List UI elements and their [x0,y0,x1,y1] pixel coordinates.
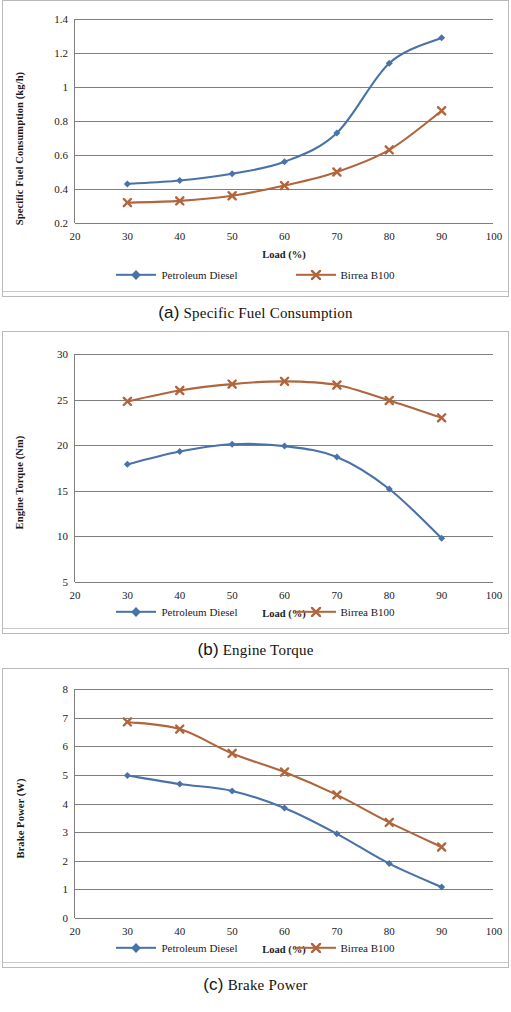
data-point-marker [281,443,288,450]
legend-item-diesel[interactable]: Petroleum Diesel [116,942,237,954]
caption-c-text: Brake Power [228,977,308,993]
x-axis-tick-label: 40 [174,589,185,601]
y-axis-tick-label: 30 [57,348,75,360]
legend-label-diesel: Petroleum Diesel [161,606,237,618]
series-line [127,722,441,847]
x-axis-tick-label: 30 [122,589,133,601]
x-axis-tick-label: 90 [436,925,447,937]
y-axis-tick-label: 0.6 [54,149,75,161]
x-axis-tick-label: 40 [174,230,185,242]
x-axis-tick-label: 40 [174,925,185,937]
legend-label-b100: Birrea B100 [341,269,395,281]
x-axis-tick-label: 30 [122,925,133,937]
y-axis-tick-label: 1.2 [54,47,75,59]
y-axis-label-b: Engine Torque (Nm) [11,332,29,633]
x-axis-tick-label: 80 [384,589,395,601]
figure-container: Specific Fuel Consumption (kg/h) 0.20.40… [0,0,511,999]
series-layer [75,689,494,918]
data-point-marker [124,180,131,187]
caption-c-tag: (c) [203,975,223,994]
y-axis-tick-label: 25 [57,394,75,406]
legend-marker-diamond-icon [116,942,156,954]
y-axis-tick-label: 5 [63,576,76,588]
y-axis-tick-label: 2 [63,855,76,867]
data-point-marker [333,791,340,798]
y-axis-tick-label: 8 [63,683,76,695]
y-axis-tick-label: 10 [57,530,75,542]
x-axis-tick-label: 30 [122,230,133,242]
legend-marker-cross-icon [296,606,336,618]
y-axis-tick-label: 1 [63,81,76,93]
caption-b-text: Engine Torque [223,642,314,658]
legend-a: Petroleum Diesel Birrea B100 [3,269,508,281]
legend-c: Petroleum Diesel Birrea B100 [3,942,508,954]
legend-item-diesel[interactable]: Petroleum Diesel [116,269,237,281]
y-axis-tick-label: 1 [63,883,76,895]
y-axis-tick-label: 0.4 [54,183,75,195]
x-axis-tick-label: 60 [279,589,290,601]
data-point-marker [281,158,288,165]
x-axis-tick-label: 70 [331,230,342,242]
chart-a: Specific Fuel Consumption (kg/h) 0.20.40… [3,1,508,296]
y-axis-tick-label: 4 [63,798,76,810]
x-axis-tick-label: 20 [70,925,81,937]
data-point-marker [386,146,393,153]
chart-panel-a: Specific Fuel Consumption (kg/h) 0.20.40… [2,0,509,297]
data-point-marker [438,107,445,114]
data-point-marker [124,461,131,468]
chart-panel-b: Engine Torque (Nm) 510152025302030405060… [2,331,509,634]
x-axis-tick-label: 100 [486,230,503,242]
plot-area-a: 0.20.40.60.811.21.42030405060708090100Lo… [74,19,493,223]
data-point-marker [281,805,288,812]
legend-marker-diamond-icon [116,269,156,281]
data-point-marker [229,170,236,177]
series-line [127,775,441,887]
series-line [127,111,441,203]
legend-label-b100: Birrea B100 [341,606,395,618]
x-axis-tick-label: 20 [70,589,81,601]
x-axis-tick-label: 50 [227,925,238,937]
series-line [127,444,441,538]
legend-item-diesel[interactable]: Petroleum Diesel [116,606,237,618]
caption-c: (c) Brake Power [0,968,511,999]
y-axis-tick-label: 0.8 [54,115,75,127]
y-axis-label-c: Brake Power (W) [11,669,29,967]
x-axis-tick-label: 80 [384,925,395,937]
y-axis-tick-label: 0.2 [54,217,75,229]
y-axis-tick-label: 0 [63,912,76,924]
data-point-marker [386,819,393,826]
gridline [75,223,493,224]
legend-marker-cross-icon [296,942,336,954]
chart-c: Brake Power (W) 012345678203040506070809… [3,669,508,967]
legend-divider-a [3,291,508,292]
y-axis-label-a-text: Specific Fuel Consumption (kg/h) [15,72,26,225]
legend-divider-b [3,628,508,629]
y-axis-label-b-text: Engine Torque (Nm) [15,436,26,530]
data-point-marker [229,787,236,794]
data-point-marker [438,843,445,850]
legend-item-b100[interactable]: Birrea B100 [296,606,395,618]
caption-a-tag: (a) [158,303,179,322]
gridline [75,918,493,919]
x-axis-tick-label: 60 [279,230,290,242]
data-point-marker [438,34,445,41]
x-axis-tick-label: 100 [486,925,503,937]
chart-b: Engine Torque (Nm) 510152025302030405060… [3,332,508,633]
legend-item-b100[interactable]: Birrea B100 [296,269,395,281]
caption-a-text: Specific Fuel Consumption [184,305,353,321]
data-point-marker [438,884,445,891]
y-axis-tick-label: 6 [63,740,76,752]
legend-label-diesel: Petroleum Diesel [161,269,237,281]
y-axis-label-a: Specific Fuel Consumption (kg/h) [11,1,29,296]
x-axis-tick-label: 70 [331,589,342,601]
y-axis-tick-label: 15 [57,485,75,497]
x-axis-tick-label: 90 [436,589,447,601]
plot-area-c: 0123456782030405060708090100Load (%) [74,689,493,918]
legend-item-b100[interactable]: Birrea B100 [296,942,395,954]
x-axis-label: Load (%) [262,249,305,260]
legend-divider-c [3,962,508,963]
series-line [127,381,441,417]
data-point-marker [176,177,183,184]
y-axis-tick-label: 1.4 [54,13,75,25]
x-axis-tick-label: 60 [279,925,290,937]
